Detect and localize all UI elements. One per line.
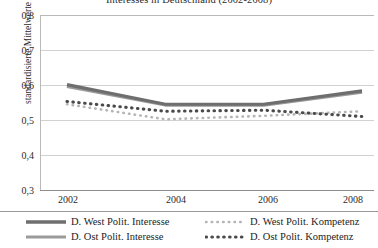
x-tick-label-2004: 2004 [153,194,199,205]
legend-swatch-solid-light [26,232,66,242]
legend-label-ost-interesse: D. Ost Polit. Interesse [71,231,163,242]
legend-item-west-kompetenz: D. West Polit. Kompetenz [205,216,360,227]
chart-title: Interesses in Deutschland (2002-2008) [0,0,378,5]
chart-figure: Interesses in Deutschland (2002-2008) st… [0,0,378,248]
series-west-interesse [67,85,362,105]
legend-item-ost-kompetenz: D. Ost Polit. Kompetenz [205,231,354,242]
y-tick-label-2: 0,6 [4,80,34,91]
legend-item-west-interesse: D. West Polit. Interesse [26,216,169,227]
y-tick-label-4: 0,4 [4,150,34,161]
legend-item-ost-interesse: D. Ost Polit. Interesse [26,231,163,242]
y-tick-label-1: 0,7 [4,45,34,56]
legend-label-ost-kompetenz: D. Ost Polit. Kompetenz [250,231,354,242]
chart-legend: D. West Polit. Interesse D. Ost Polit. I… [0,211,378,248]
legend-swatch-solid-dark [26,217,66,227]
x-tick-label-2006: 2006 [245,194,291,205]
legend-swatch-dotted-light [205,217,245,227]
y-tick-label-0: 0,8 [4,10,34,21]
y-tick-label-5: 0,3 [4,185,34,196]
x-tick-label-2008: 2008 [330,194,376,205]
x-axis-line [40,190,374,191]
series-layer [40,15,374,190]
x-tick-label-2002: 2002 [45,194,91,205]
legend-label-west-kompetenz: D. West Polit. Kompetenz [250,216,360,227]
legend-swatch-dotted-dark [205,232,245,242]
legend-label-west-interesse: D. West Polit. Interesse [71,216,169,227]
y-tick-label-3: 0,5 [4,115,34,126]
